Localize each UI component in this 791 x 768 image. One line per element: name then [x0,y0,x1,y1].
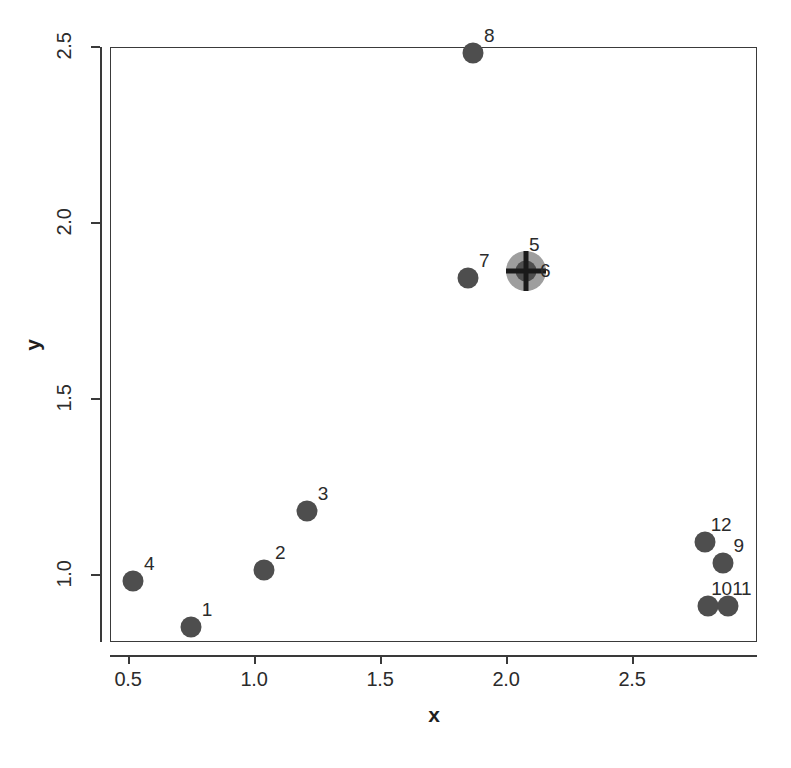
x-tick-label-2.5: 2.5 [619,668,646,691]
data-point-label-9: 9 [734,535,744,557]
x-tick-label-2.0: 2.0 [493,668,520,691]
data-point-label-5: 5 [529,234,539,256]
data-point-dot-2[interactable] [254,560,275,581]
y-tick-2.0 [91,222,100,224]
x-tick-1.5 [380,655,382,664]
data-point-dot-1[interactable] [181,616,202,637]
plot-panel [110,47,757,642]
data-point-label-1: 1 [202,599,212,621]
crosshair-vertical-icon [524,251,529,291]
x-tick-0.5 [128,655,130,664]
y-tick-1.5 [91,398,100,400]
x-axis-title: x [428,703,440,727]
data-point-dot-4[interactable] [123,571,144,592]
data-point-label-7: 7 [479,250,489,272]
data-point-dot-9[interactable] [712,553,733,574]
y-tick-label-2.0: 2.0 [53,209,76,236]
data-point-label-3: 3 [318,483,328,505]
data-point-label-4: 4 [144,553,154,575]
x-tick-1.0 [254,655,256,664]
x-tick-label-1.0: 1.0 [241,668,268,691]
data-point-label-2: 2 [275,542,285,564]
x-tick-2.5 [632,655,634,664]
x-axis-line [110,655,757,657]
data-point-label-8: 8 [484,25,494,47]
x-tick-2.0 [506,655,508,664]
data-point-dot-3[interactable] [296,500,317,521]
data-point-label-11: 11 [732,578,751,600]
data-point-dot-7[interactable] [458,268,479,289]
x-tick-label-0.5: 0.5 [115,668,142,691]
y-tick-label-1.5: 1.5 [53,385,76,412]
y-axis-line [100,47,102,642]
y-tick-label-2.5: 2.5 [53,33,76,60]
scatter-plot-figure: 0.51.01.52.02.5 1.01.52.02.5 12345678910… [0,0,791,768]
x-tick-label-1.5: 1.5 [367,668,394,691]
y-tick-label-1.0: 1.0 [53,561,76,588]
y-tick-2.5 [91,46,100,48]
data-point-label-6: 6 [540,260,550,282]
data-point-dot-8[interactable] [463,43,484,64]
y-axis-title: y [21,339,45,351]
data-point-label-12: 12 [711,514,732,536]
y-tick-1.0 [91,574,100,576]
